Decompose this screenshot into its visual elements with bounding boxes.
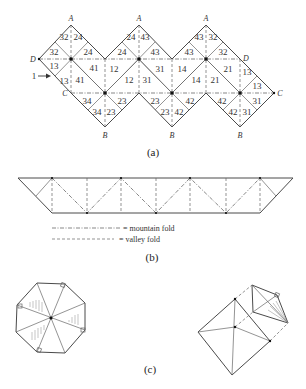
face-number: 24	[118, 47, 128, 57]
face-number: 42	[218, 96, 227, 106]
face-number: 13	[50, 61, 60, 71]
face-number: 31	[156, 64, 165, 74]
vertex-dot	[69, 57, 73, 61]
face-number: 24	[74, 32, 84, 42]
origami-diagram: 32 24 32 24 13 13 41 41 34 34 23 12 12 2…	[0, 0, 306, 389]
face-number: 13	[60, 76, 70, 86]
face-number: 42	[175, 107, 184, 117]
face-number: 31	[243, 107, 252, 117]
arrow-label: 1	[32, 71, 37, 81]
vertex-dot	[238, 91, 242, 95]
caption-a: (a)	[147, 146, 160, 159]
figure-c-octagon	[16, 282, 85, 353]
figure-a-net: 32 24 32 24 13 13 41 41 34 34 23 12 12 2…	[29, 14, 283, 160]
legend-valley-fold: = valley fold	[52, 235, 160, 244]
vertex-label: A	[136, 14, 142, 23]
vertex-dot	[103, 91, 107, 95]
face-number: 21	[211, 75, 220, 85]
vertex-dot	[204, 57, 208, 61]
face-number: 23	[161, 107, 171, 117]
face-number: 24	[84, 47, 94, 57]
caption-b: (b)	[146, 251, 159, 264]
face-number: 32	[50, 47, 59, 57]
face-number: 31	[253, 96, 262, 106]
vertex-label: C	[62, 89, 68, 98]
legend-mountain-fold: = mountain fold	[52, 224, 175, 233]
arrow-icon	[38, 74, 51, 79]
legend-label: = valley fold	[119, 235, 160, 244]
face-number: 12	[110, 64, 119, 74]
face-number: 13	[253, 81, 263, 91]
face-number: 41	[76, 75, 85, 85]
figure-c-folded-model	[198, 285, 288, 375]
vertex-label: C	[277, 89, 283, 98]
face-number: 34	[93, 107, 103, 117]
face-number: 23	[118, 96, 128, 106]
face-number: 14	[178, 64, 188, 74]
face-number: 32	[60, 32, 69, 42]
face-number: 43	[141, 32, 151, 42]
face-number: 31	[143, 75, 152, 85]
face-number: 24	[127, 32, 137, 42]
vertex-dot	[137, 57, 141, 61]
face-number: 21	[224, 64, 233, 74]
face-number: 42	[229, 107, 238, 117]
vertex-label: A	[203, 14, 209, 23]
vertex-label: D	[242, 54, 249, 63]
legend-label: = mountain fold	[123, 224, 175, 233]
face-number: 43	[185, 47, 195, 57]
vertex-label: D	[29, 55, 36, 64]
face-number: 42	[186, 96, 195, 106]
vertex-label: B	[238, 131, 243, 140]
face-number: 23	[151, 96, 161, 106]
face-number: 12	[125, 75, 134, 85]
face-number: 13	[243, 67, 253, 77]
face-number: 32	[219, 47, 228, 57]
vertex-label: A	[68, 14, 74, 23]
vertex-label: B	[170, 131, 175, 140]
face-number: 32	[209, 32, 218, 42]
face-number: 43	[195, 32, 205, 42]
face-number: 23	[107, 107, 117, 117]
face-number: 34	[83, 96, 93, 106]
vertex-dot	[170, 91, 174, 95]
vertex-label: B	[103, 131, 108, 140]
caption-c: (c)	[144, 363, 157, 376]
figure-b-strip: = mountain fold = valley fold (b)	[18, 177, 293, 264]
face-number: 41	[90, 63, 99, 73]
face-number: 14	[192, 75, 202, 85]
face-number: 43	[151, 47, 161, 57]
